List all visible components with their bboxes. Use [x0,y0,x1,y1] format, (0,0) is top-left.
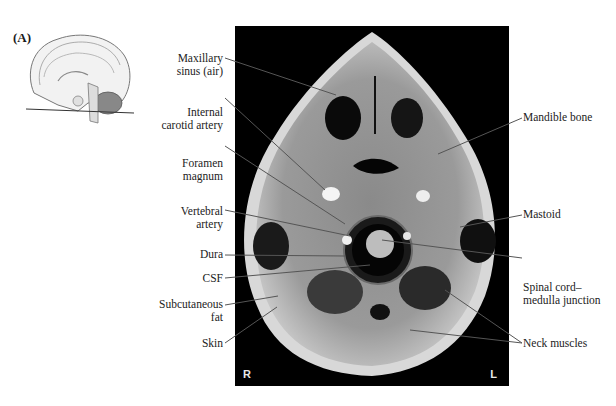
label-line: Maxillary [177,52,223,65]
label-line: Skin [202,337,223,350]
label-line: fat [159,311,223,324]
label-line: Spinal cord– [523,281,601,294]
label-line: Subcutaneous [159,298,223,311]
brain-sagittal-inset [18,25,138,125]
label-line: Vertebral [181,205,223,218]
label-line: Neck muscles [523,337,587,350]
label-line: Mastoid [523,208,561,221]
label-line: artery [181,218,223,231]
label-line: CSF [203,272,223,285]
label-foramen-magnum: Foramen magnum [182,157,223,183]
label-internal-carotid-artery: Internal carotid artery [161,106,223,132]
mri-axial-image: R L [235,26,509,386]
label-spinal-cord-medulla-junction: Spinal cord– medulla junction [523,281,601,307]
label-line: carotid artery [161,119,223,132]
label-line: magnum [182,170,223,183]
label-line: Foramen [182,157,223,170]
label-line: medulla junction [523,294,601,307]
label-mastoid: Mastoid [523,208,561,221]
label-dura: Dura [200,248,223,261]
label-line: Internal [161,106,223,119]
label-csf: CSF [203,272,223,285]
label-line: sinus (air) [177,65,223,78]
label-line: Mandible bone [523,111,592,124]
right-side-marker: R [243,368,251,380]
left-side-marker: L [490,368,497,380]
label-line: Dura [200,248,223,261]
label-subcutaneous-fat: Subcutaneous fat [159,298,223,324]
label-mandible-bone: Mandible bone [523,111,592,124]
label-skin: Skin [202,337,223,350]
label-neck-muscles: Neck muscles [523,337,587,350]
label-maxillary-sinus: Maxillary sinus (air) [177,52,223,78]
label-vertebral-artery: Vertebral artery [181,205,223,231]
